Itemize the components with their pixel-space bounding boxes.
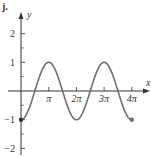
part-label: j. — [1, 1, 8, 12]
endpoint-start — [19, 118, 23, 122]
x-axis-label: x — [145, 77, 151, 88]
x-tick-label: 2π — [71, 93, 82, 104]
y-axis-label: y — [26, 9, 32, 20]
x-tick-label: 3π — [98, 93, 110, 104]
y-tick-label: 2 — [10, 28, 15, 39]
y-tick-label: −1 — [4, 114, 15, 125]
x-tick-label: π — [46, 93, 52, 104]
endpoint-end — [130, 118, 134, 122]
y-tick-label: 1 — [10, 57, 15, 68]
axes — [8, 12, 150, 155]
chart: j. 21−1−2π2π3π4π y x — [0, 0, 151, 157]
y-axis-arrow — [19, 12, 24, 19]
y-tick-label: −2 — [4, 143, 15, 154]
x-tick-label: 4π — [127, 93, 138, 104]
x-axis-arrow — [143, 89, 150, 94]
